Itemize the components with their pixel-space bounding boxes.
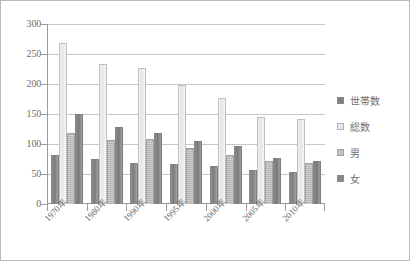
bar-group (87, 24, 127, 204)
bar-groups (47, 24, 325, 204)
bar-group (166, 24, 206, 204)
bar-group (206, 24, 246, 204)
bar[interactable] (59, 43, 67, 204)
chart-container: 300 250 200 150 100 50 0 1970年1980年1990年… (0, 0, 410, 261)
bar-group (126, 24, 166, 204)
x-label-cell: 1990年 (126, 213, 166, 259)
legend-item[interactable]: 女 (337, 165, 407, 191)
bar[interactable] (257, 117, 265, 204)
bar[interactable] (146, 139, 154, 204)
legend-item-label: 世帯数 (350, 93, 380, 108)
x-label-cell: 2000年 (206, 213, 246, 259)
x-tick-mark (324, 204, 325, 211)
bar[interactable] (186, 148, 194, 204)
y-tick-label: 200 (7, 78, 41, 89)
bar[interactable] (178, 85, 186, 204)
y-tick-label: 100 (7, 138, 41, 149)
x-label-cell: 2005年 (246, 213, 286, 259)
bar[interactable] (305, 163, 313, 204)
bar[interactable] (138, 68, 146, 204)
y-tick-label: 150 (7, 108, 41, 119)
bar[interactable] (218, 98, 226, 204)
x-label-cell: 2010年 (285, 213, 325, 259)
x-label-cell: 1995年 (166, 213, 206, 259)
legend-item-label: 男 (350, 145, 360, 160)
bar[interactable] (313, 161, 321, 204)
bar[interactable] (154, 133, 162, 204)
bar[interactable] (273, 158, 281, 204)
legend-swatch-icon (337, 123, 344, 130)
legend-swatch-icon (337, 175, 344, 182)
bar[interactable] (265, 161, 273, 204)
y-tick-label: 0 (7, 198, 41, 209)
bar[interactable] (234, 146, 242, 204)
bar[interactable] (67, 133, 75, 204)
legend-item[interactable]: 男 (337, 139, 407, 165)
y-tick-label: 300 (7, 18, 41, 29)
legend-item-label: 女 (350, 171, 360, 186)
bar-group (285, 24, 325, 204)
x-label-cell: 1980年 (87, 213, 127, 259)
legend-item-label: 総数 (350, 119, 370, 134)
legend-swatch-icon (337, 149, 344, 156)
bar[interactable] (99, 64, 107, 204)
bar[interactable] (226, 155, 234, 204)
bar[interactable] (107, 140, 115, 204)
y-tick-label: 50 (7, 168, 41, 179)
bar[interactable] (194, 141, 202, 204)
bar-group (246, 24, 286, 204)
bar[interactable] (115, 127, 123, 204)
legend-item[interactable]: 総数 (337, 113, 407, 139)
x-axis-labels: 1970年1980年1990年1995年2000年2005年2010年 (47, 213, 325, 259)
chart-legend: 世帯数総数男女 (337, 87, 407, 191)
legend-item[interactable]: 世帯数 (337, 87, 407, 113)
bar[interactable] (297, 119, 305, 204)
bar-group (47, 24, 87, 204)
legend-swatch-icon (337, 97, 344, 104)
bar[interactable] (75, 114, 83, 204)
x-label-cell: 1970年 (47, 213, 87, 259)
y-tick-label: 250 (7, 48, 41, 59)
